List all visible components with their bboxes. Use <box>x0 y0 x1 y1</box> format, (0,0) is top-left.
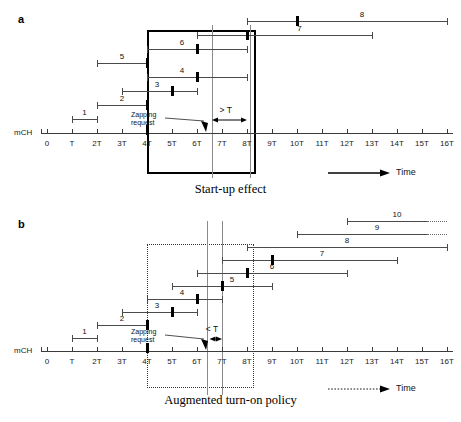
panel-a-caption: Start-up effect <box>0 182 461 196</box>
time-legend-label-b: Time <box>396 384 416 393</box>
time-legend-b <box>0 211 461 422</box>
time-arrowhead <box>380 385 390 392</box>
panel-b: b 12345678910mCH0T2T3T4T5T6T7T8T9T10T11T… <box>0 211 461 422</box>
time-legend-a <box>0 0 461 211</box>
panel-a: a 12345678mCH0T2T3T4T5T6T7T8T9T10T11T12T… <box>0 0 461 211</box>
time-arrowhead <box>380 169 390 176</box>
time-legend-label-a: Time <box>396 168 416 177</box>
panel-b-caption: Augmented turn-on policy <box>0 393 461 407</box>
